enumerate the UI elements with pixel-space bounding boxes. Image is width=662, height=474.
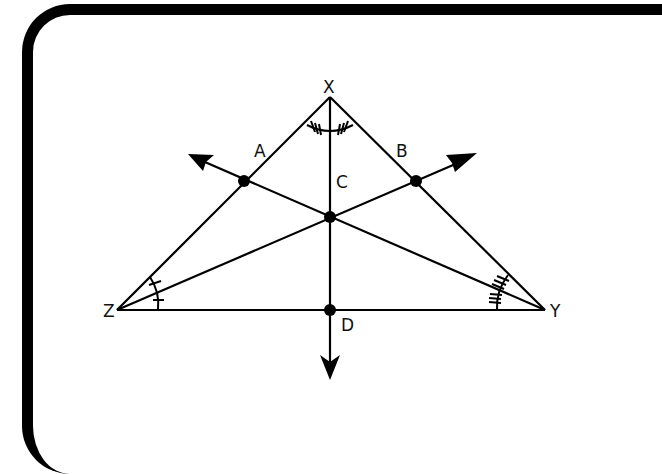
arrowhead-icon-upper-right — [446, 153, 477, 172]
tick — [319, 124, 321, 135]
point-a — [238, 175, 250, 187]
point-d — [324, 304, 336, 316]
tick — [490, 294, 502, 295]
bisector-rays — [117, 97, 545, 370]
label-c: C — [336, 172, 348, 192]
label-y: Y — [549, 301, 561, 321]
point-c-incenter — [324, 211, 336, 223]
arrowheads — [188, 153, 477, 380]
label-x: X — [323, 77, 335, 97]
tick — [489, 302, 501, 303]
tick — [489, 298, 501, 299]
label-d: D — [341, 315, 354, 335]
ray-y-to-a — [198, 159, 545, 310]
label-b: B — [396, 141, 408, 161]
tick — [338, 124, 340, 135]
label-z: Z — [103, 301, 115, 321]
labels: X A B C Z Y D — [103, 77, 561, 335]
arrowhead-icon-upper-left — [188, 154, 214, 171]
angle-mark-z — [149, 277, 164, 310]
point-b — [410, 175, 422, 187]
label-a: A — [254, 141, 266, 161]
